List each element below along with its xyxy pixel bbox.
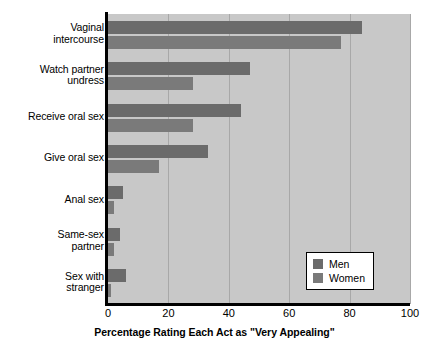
category-label-line: stranger: [0, 282, 104, 294]
bar-men: [108, 269, 126, 282]
category-label-line: Vaginal: [0, 22, 104, 34]
bar-men: [108, 145, 208, 158]
category-label-line: Receive oral sex: [0, 111, 104, 123]
x-axis-tick-labels: 020406080100: [0, 307, 429, 323]
bar-men: [108, 228, 120, 241]
chart-legend: MenWomen: [306, 252, 374, 290]
x-axis-line: [105, 303, 410, 306]
category-label: Watch partnerundress: [0, 64, 104, 87]
category-label-line: undress: [0, 75, 104, 87]
gridline: [229, 14, 230, 304]
legend-label: Women: [329, 272, 365, 284]
x-tick-label: 100: [401, 307, 419, 319]
x-tick-label: 40: [223, 307, 235, 319]
category-label-line: Give oral sex: [0, 152, 104, 164]
gridline: [410, 14, 411, 304]
category-label: Sex withstranger: [0, 271, 104, 294]
category-axis-labels: VaginalintercourseWatch partnerundressRe…: [0, 14, 104, 304]
x-tick-label: 20: [162, 307, 174, 319]
bar-men: [108, 62, 250, 75]
bar-women: [108, 284, 111, 297]
category-label: Anal sex: [0, 194, 104, 206]
category-label: Vaginalintercourse: [0, 22, 104, 45]
category-label: Same-sexpartner: [0, 229, 104, 252]
category-label: Give oral sex: [0, 152, 104, 164]
gridline: [289, 14, 290, 304]
legend-swatch: [313, 273, 323, 283]
legend-item: Women: [313, 271, 365, 285]
bar-women: [108, 160, 159, 173]
bar-men: [108, 104, 241, 117]
category-label-line: Anal sex: [0, 194, 104, 206]
x-tick-label: 80: [343, 307, 355, 319]
x-tick-label: 0: [105, 307, 111, 319]
bar-chart: VaginalintercourseWatch partnerundressRe…: [0, 0, 429, 346]
x-tick-label: 60: [283, 307, 295, 319]
bar-women: [108, 77, 193, 90]
bar-women: [108, 243, 114, 256]
bar-women: [108, 119, 193, 132]
legend-item: Men: [313, 257, 365, 271]
legend-label: Men: [329, 258, 349, 270]
gridline: [168, 14, 169, 304]
category-label: Receive oral sex: [0, 111, 104, 123]
legend-swatch: [313, 259, 323, 269]
category-label-line: intercourse: [0, 34, 104, 46]
bar-men: [108, 21, 362, 34]
bar-women: [108, 36, 341, 49]
x-axis-title: Percentage Rating Each Act as "Very Appe…: [0, 326, 429, 338]
bar-women: [108, 201, 114, 214]
category-label-line: partner: [0, 241, 104, 253]
bar-men: [108, 186, 123, 199]
